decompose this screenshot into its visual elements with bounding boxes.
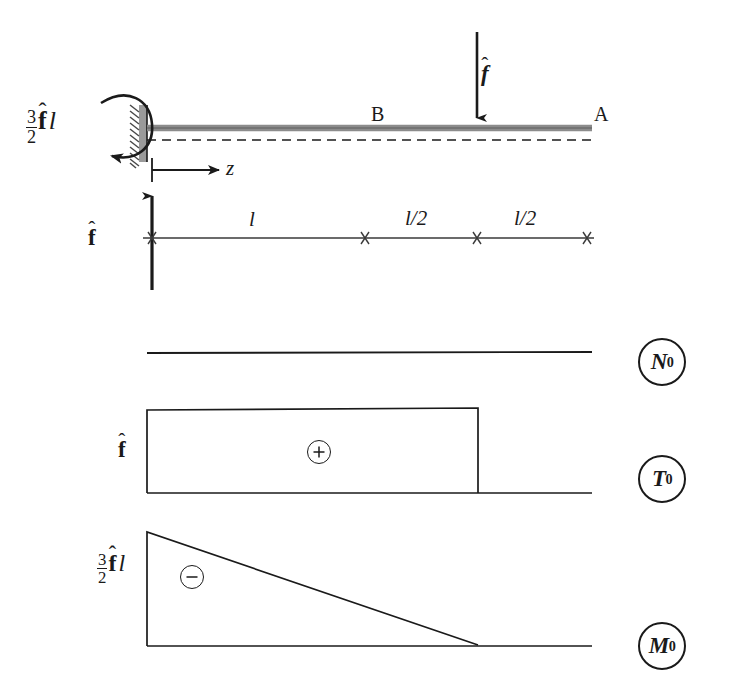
applied-moment-label: 32ˆfl xyxy=(26,108,56,146)
diagram-label-t0: T0 xyxy=(638,455,686,503)
m0-force-symbol: ˆf xyxy=(108,551,116,575)
m0-subscript: 0 xyxy=(669,638,676,655)
dimension-label-1: l xyxy=(249,209,255,230)
point-label-b: B xyxy=(371,104,384,124)
n0-letter: N xyxy=(651,349,667,375)
m0-numerator: 3 xyxy=(97,551,107,568)
plus-icon xyxy=(312,445,326,459)
moment-length-symbol: l xyxy=(49,106,56,135)
hat-accent-icon: ˆ xyxy=(38,100,46,124)
hat-accent-icon: ˆ xyxy=(88,219,95,240)
t0-letter: T xyxy=(652,466,666,492)
dimension-label-2: l/2 xyxy=(405,208,427,229)
diagram-label-m0: M0 xyxy=(638,622,686,670)
t0-value-label: ˆf xyxy=(118,438,126,461)
moment-numerator: 3 xyxy=(26,108,37,127)
hat-accent-icon: ˆ xyxy=(481,55,488,76)
m0-value-label: 32ˆfl xyxy=(97,551,125,587)
n0-subscript: 0 xyxy=(667,354,674,371)
fixed-support xyxy=(130,105,147,168)
m0-letter: M xyxy=(649,633,669,659)
applied-force-label: ˆf xyxy=(481,62,489,85)
z-axis-label: z xyxy=(226,158,234,179)
moment-fraction: 32 xyxy=(26,108,37,146)
t0-subscript: 0 xyxy=(665,471,672,488)
minus-icon xyxy=(185,570,199,584)
minus-sign-badge xyxy=(180,565,204,589)
m0-length-symbol: l xyxy=(118,550,125,576)
hat-accent-icon: ˆ xyxy=(109,544,116,566)
hat-accent-icon: ˆ xyxy=(118,431,125,452)
reaction-force-label: ˆf xyxy=(88,226,96,249)
m0-denominator: 2 xyxy=(97,568,107,586)
dimension-label-3: l/2 xyxy=(514,208,536,229)
plus-sign-badge xyxy=(307,440,331,464)
z-axis xyxy=(152,158,219,182)
m0-diagram xyxy=(147,532,592,646)
m0-fraction: 32 xyxy=(97,551,107,586)
n0-diagram xyxy=(147,352,592,353)
t0-diagram xyxy=(147,408,592,493)
moment-denominator: 2 xyxy=(26,127,37,147)
point-label-a: A xyxy=(594,104,608,124)
figure-root: 32ˆfl ˆf z B A ˆf l l/2 l/2 ˆf 32ˆfl N0 xyxy=(0,0,749,694)
diagram-label-n0: N0 xyxy=(638,338,686,386)
moment-force-symbol: ˆf xyxy=(38,108,47,134)
dimension-line xyxy=(143,232,594,244)
